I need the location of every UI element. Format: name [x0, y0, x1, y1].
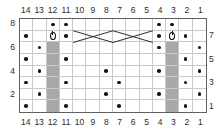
chart-cell-r2-c7[interactable]: [113, 89, 126, 101]
chart-cell-r3-c13[interactable]: [33, 77, 46, 89]
chart-cell-r7-c8[interactable]: [100, 31, 113, 43]
chart-cell-r8-c11[interactable]: [60, 19, 73, 31]
chart-cell-r6-c1[interactable]: [193, 42, 206, 54]
chart-cell-r2-c4[interactable]: [153, 89, 166, 101]
chart-cell-r7-c13[interactable]: [33, 31, 46, 43]
chart-cell-r2-c10[interactable]: [73, 89, 86, 101]
chart-cell-r8-c12[interactable]: [47, 19, 60, 31]
chart-cell-r4-c3[interactable]: [166, 66, 179, 78]
chart-cell-r3-c2[interactable]: [179, 77, 192, 89]
chart-cell-r6-c7[interactable]: [113, 42, 126, 54]
chart-grid[interactable]: [19, 18, 207, 113]
chart-cell-r5-c9[interactable]: [86, 54, 99, 66]
chart-cell-r4-c4[interactable]: [153, 66, 166, 78]
chart-cell-r8-c8[interactable]: [100, 19, 113, 31]
chart-cell-r3-c11[interactable]: [60, 77, 73, 89]
chart-cell-r3-c9[interactable]: [86, 77, 99, 89]
chart-cell-r4-c5[interactable]: [140, 66, 153, 78]
chart-cell-r6-c4[interactable]: [153, 42, 166, 54]
chart-cell-r2-c13[interactable]: [33, 89, 46, 101]
chart-cell-r1-c14[interactable]: [20, 100, 33, 112]
chart-cell-r2-c11[interactable]: [60, 89, 73, 101]
chart-cell-r1-c5[interactable]: [140, 100, 153, 112]
chart-cell-r1-c6[interactable]: [126, 100, 139, 112]
chart-cell-r6-c9[interactable]: [86, 42, 99, 54]
chart-cell-r1-c12[interactable]: [47, 100, 60, 112]
chart-cell-r4-c12[interactable]: [47, 66, 60, 78]
chart-cell-r5-c12[interactable]: [47, 54, 60, 66]
chart-cell-r6-c13[interactable]: [33, 42, 46, 54]
chart-cell-r7-c5[interactable]: [140, 31, 153, 43]
chart-cell-r2-c1[interactable]: [193, 89, 206, 101]
chart-cell-r6-c12[interactable]: [47, 42, 60, 54]
chart-cell-r3-c10[interactable]: [73, 77, 86, 89]
chart-cell-r6-c5[interactable]: [140, 42, 153, 54]
chart-cell-r2-c2[interactable]: [179, 89, 192, 101]
chart-cell-r5-c10[interactable]: [73, 54, 86, 66]
chart-cell-r4-c11[interactable]: [60, 66, 73, 78]
chart-cell-r8-c9[interactable]: [86, 19, 99, 31]
chart-cell-r5-c8[interactable]: [100, 54, 113, 66]
chart-cell-r2-c6[interactable]: [126, 89, 139, 101]
chart-cell-r8-c10[interactable]: [73, 19, 86, 31]
chart-cell-r3-c5[interactable]: [140, 77, 153, 89]
chart-cell-r5-c6[interactable]: [126, 54, 139, 66]
chart-cell-r7-c10[interactable]: [73, 31, 86, 43]
chart-cell-r5-c3[interactable]: [166, 54, 179, 66]
chart-cell-r5-c11[interactable]: [60, 54, 73, 66]
chart-cell-r5-c5[interactable]: [140, 54, 153, 66]
chart-cell-r1-c10[interactable]: [73, 100, 86, 112]
chart-cell-r2-c12[interactable]: [47, 89, 60, 101]
chart-cell-r1-c2[interactable]: [179, 100, 192, 112]
chart-cell-r4-c1[interactable]: [193, 66, 206, 78]
chart-cell-r1-c1[interactable]: [193, 100, 206, 112]
chart-cell-r4-c6[interactable]: [126, 66, 139, 78]
chart-cell-r3-c7[interactable]: [113, 77, 126, 89]
chart-cell-r6-c14[interactable]: [20, 42, 33, 54]
chart-cell-r8-c13[interactable]: [33, 19, 46, 31]
chart-cell-r1-c9[interactable]: [86, 100, 99, 112]
chart-cell-r7-c6[interactable]: [126, 31, 139, 43]
chart-cell-r8-c7[interactable]: [113, 19, 126, 31]
chart-cell-r7-c3[interactable]: [166, 31, 179, 43]
chart-cell-r6-c2[interactable]: [179, 42, 192, 54]
chart-cell-r7-c2[interactable]: [179, 31, 192, 43]
chart-cell-r3-c3[interactable]: [166, 77, 179, 89]
chart-cell-r8-c2[interactable]: [179, 19, 192, 31]
chart-cell-r5-c13[interactable]: [33, 54, 46, 66]
chart-cell-r7-c11[interactable]: [60, 31, 73, 43]
chart-cell-r6-c6[interactable]: [126, 42, 139, 54]
chart-cell-r4-c14[interactable]: [20, 66, 33, 78]
chart-cell-r4-c13[interactable]: [33, 66, 46, 78]
chart-cell-r4-c7[interactable]: [113, 66, 126, 78]
chart-cell-r4-c10[interactable]: [73, 66, 86, 78]
chart-cell-r3-c8[interactable]: [100, 77, 113, 89]
chart-cell-r3-c12[interactable]: [47, 77, 60, 89]
chart-cell-r2-c8[interactable]: [100, 89, 113, 101]
chart-cell-r4-c9[interactable]: [86, 66, 99, 78]
chart-cell-r5-c1[interactable]: [193, 54, 206, 66]
chart-cell-r1-c3[interactable]: [166, 100, 179, 112]
chart-cell-r3-c4[interactable]: [153, 77, 166, 89]
chart-cell-r4-c8[interactable]: [100, 66, 113, 78]
chart-cell-r2-c3[interactable]: [166, 89, 179, 101]
chart-cell-r7-c7[interactable]: [113, 31, 126, 43]
chart-cell-r5-c7[interactable]: [113, 54, 126, 66]
chart-cell-r5-c4[interactable]: [153, 54, 166, 66]
chart-cell-r8-c4[interactable]: [153, 19, 166, 31]
chart-cell-r2-c14[interactable]: [20, 89, 33, 101]
chart-cell-r2-c9[interactable]: [86, 89, 99, 101]
chart-cell-r3-c6[interactable]: [126, 77, 139, 89]
chart-cell-r8-c3[interactable]: [166, 19, 179, 31]
chart-cell-r7-c1[interactable]: [193, 31, 206, 43]
chart-cell-r4-c2[interactable]: [179, 66, 192, 78]
chart-cell-r8-c5[interactable]: [140, 19, 153, 31]
chart-cell-r5-c2[interactable]: [179, 54, 192, 66]
chart-cell-r7-c14[interactable]: [20, 31, 33, 43]
chart-cell-r8-c6[interactable]: [126, 19, 139, 31]
chart-cell-r2-c5[interactable]: [140, 89, 153, 101]
chart-cell-r7-c4[interactable]: [153, 31, 166, 43]
chart-cell-r1-c7[interactable]: [113, 100, 126, 112]
chart-cell-r8-c1[interactable]: [193, 19, 206, 31]
chart-cell-r3-c1[interactable]: [193, 77, 206, 89]
